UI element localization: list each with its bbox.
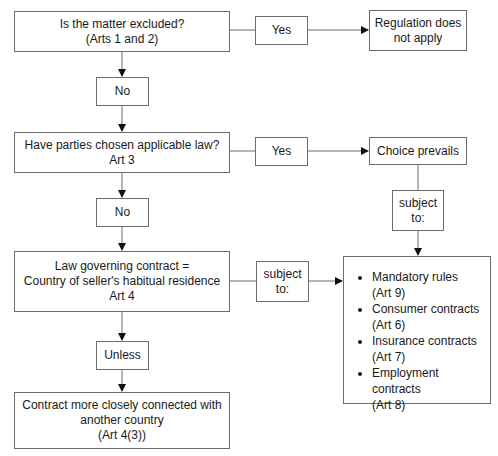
- no-box-1: No: [96, 77, 149, 106]
- subject-to-mid-text-2: to:: [276, 282, 289, 297]
- exception-ref: (Art 7): [372, 349, 484, 365]
- law-governing-text-1: Law governing contract =: [55, 259, 189, 274]
- subject-to-mid-text-1: subject: [263, 267, 301, 282]
- choice-prevails-box: Choice prevails: [369, 137, 467, 165]
- exception-ref: (Art 6): [372, 317, 484, 333]
- exception-name: Mandatory rules: [372, 269, 484, 285]
- exception-item: Employment contracts (Art 8): [372, 365, 484, 413]
- law-governing-ref: Art 4: [109, 289, 134, 304]
- exceptions-list: Mandatory rules (Art 9) Consumer contrac…: [354, 269, 484, 413]
- question-chosen-law-text: Have parties chosen applicable law?: [25, 138, 220, 153]
- exception-item: Insurance contracts (Art 7): [372, 333, 484, 365]
- exception-name: Employment contracts: [372, 365, 484, 397]
- question-excluded-ref: (Arts 1 and 2): [86, 32, 159, 47]
- subject-to-right-text-2: to:: [411, 211, 424, 226]
- question-chosen-law-ref: Art 3: [109, 153, 134, 168]
- question-excluded-text: Is the matter excluded?: [60, 17, 185, 32]
- closer-connection-text-2: another country: [80, 413, 163, 428]
- choice-prevails-label: Choice prevails: [377, 144, 459, 159]
- subject-to-right-text-1: subject: [399, 196, 437, 211]
- yes-label-1: Yes: [272, 23, 292, 38]
- law-governing-text-2: Country of seller's habitual residence: [24, 274, 220, 289]
- exception-name: Insurance contracts: [372, 333, 484, 349]
- yes-box-1: Yes: [255, 16, 308, 45]
- yes-label-2: Yes: [272, 144, 292, 159]
- exception-name: Consumer contracts: [372, 301, 484, 317]
- regulation-not-apply-text-1: Regulation does: [375, 16, 462, 31]
- exception-item: Consumer contracts (Art 6): [372, 301, 484, 333]
- closer-connection-text-1: Contract more closely connected with: [22, 398, 221, 413]
- no-label-1: No: [115, 84, 130, 99]
- law-governing-box: Law governing contract = Country of sell…: [14, 251, 230, 312]
- subject-to-box-mid: subject to:: [256, 261, 309, 302]
- exception-ref: (Art 9): [372, 285, 484, 301]
- no-box-2: No: [96, 198, 149, 227]
- question-excluded-box: Is the matter excluded? (Arts 1 and 2): [14, 11, 230, 52]
- exception-item: Mandatory rules (Art 9): [372, 269, 484, 301]
- yes-box-2: Yes: [255, 137, 308, 166]
- no-label-2: No: [115, 205, 130, 220]
- unless-box: Unless: [96, 341, 149, 370]
- regulation-not-apply-text-2: not apply: [394, 31, 443, 46]
- question-chosen-law-box: Have parties chosen applicable law? Art …: [14, 132, 230, 173]
- regulation-not-apply-box: Regulation does not apply: [369, 10, 467, 51]
- exceptions-box: Mandatory rules (Art 9) Consumer contrac…: [343, 256, 491, 404]
- closer-connection-ref: (Art 4(3)): [98, 428, 146, 443]
- exception-ref: (Art 8): [372, 397, 484, 413]
- unless-label: Unless: [104, 348, 141, 363]
- closer-connection-box: Contract more closely connected with ano…: [14, 392, 230, 449]
- subject-to-box-right: subject to:: [392, 190, 444, 231]
